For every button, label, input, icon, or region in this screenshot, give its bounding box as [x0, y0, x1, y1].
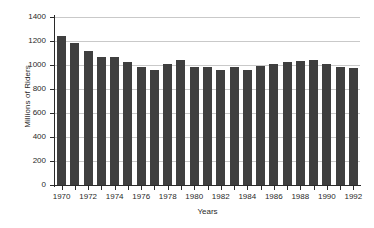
x-axis-tick	[101, 186, 102, 190]
bar	[57, 36, 66, 185]
bar	[230, 67, 239, 185]
bar	[150, 70, 159, 185]
bar	[123, 62, 132, 185]
x-axis-title: Years	[55, 207, 360, 216]
x-axis-tick	[287, 186, 288, 190]
x-axis-tick	[353, 186, 354, 190]
x-axis-tick	[300, 186, 301, 190]
bar	[190, 67, 199, 185]
x-axis-tick	[221, 186, 222, 190]
y-axis-tick-label: 0	[0, 180, 46, 189]
x-axis-tick	[128, 186, 129, 190]
bar	[84, 51, 93, 185]
x-axis-tick	[154, 186, 155, 190]
bar	[243, 70, 252, 185]
bar	[137, 67, 146, 185]
x-axis-tick	[168, 186, 169, 190]
bar	[349, 68, 358, 185]
x-axis-tick	[62, 186, 63, 190]
x-axis-tick	[115, 186, 116, 190]
x-axis-tick	[194, 186, 195, 190]
y-axis-tick-label: 400	[0, 132, 46, 141]
x-axis-tick	[261, 186, 262, 190]
plot-area	[55, 17, 360, 185]
x-axis-tick	[247, 186, 248, 190]
x-axis-tick	[181, 186, 182, 190]
x-axis-tick	[88, 186, 89, 190]
bar	[269, 64, 278, 185]
bar	[296, 61, 305, 185]
bar	[203, 67, 212, 185]
x-axis-tick	[208, 186, 209, 190]
gridline	[55, 17, 360, 18]
x-axis-tick	[327, 186, 328, 190]
bar	[283, 62, 292, 185]
x-axis-tick	[314, 186, 315, 190]
x-axis-tick-label: 1992	[336, 192, 370, 201]
y-axis-tick-label: 1200	[0, 36, 46, 45]
y-axis-tick-label: 1000	[0, 60, 46, 69]
x-axis-tick	[274, 186, 275, 190]
x-axis-tick	[75, 186, 76, 190]
y-axis-tick-label: 1400	[0, 12, 46, 21]
bar	[97, 57, 106, 185]
bar	[309, 60, 318, 185]
bar	[256, 66, 265, 185]
bar	[216, 70, 225, 185]
x-axis-tick	[141, 186, 142, 190]
x-axis-tick	[340, 186, 341, 190]
bar-chart-figure: Millions of Riders 020040060080010001200…	[0, 0, 374, 228]
y-axis-tick-label: 600	[0, 108, 46, 117]
bar	[110, 57, 119, 185]
bar	[70, 43, 79, 185]
bar	[336, 67, 345, 185]
y-axis-tick-label: 200	[0, 156, 46, 165]
bar	[176, 60, 185, 185]
bar	[163, 64, 172, 185]
y-axis-tick	[50, 185, 55, 186]
y-axis-tick-label: 800	[0, 84, 46, 93]
bar	[322, 64, 331, 185]
gridline	[55, 41, 360, 42]
x-axis-tick	[234, 186, 235, 190]
